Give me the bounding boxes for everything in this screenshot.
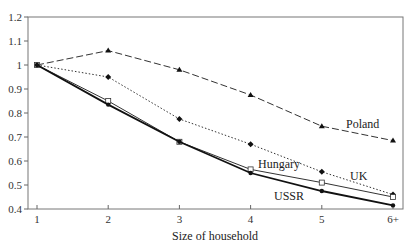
marker-triangle [105, 48, 111, 53]
marker-circle [320, 189, 324, 193]
y-tick-label: 0.6 [8, 155, 22, 167]
series-label-hungary: Hungary [258, 157, 300, 171]
series-poland [34, 48, 396, 143]
marker-diamond [319, 169, 325, 175]
x-tick-label: 4 [248, 213, 254, 225]
series-label-uk: UK [350, 169, 368, 183]
marker-circle [177, 140, 181, 144]
x-tick-label: 1 [34, 213, 40, 225]
x-tick-label: 5 [319, 213, 325, 225]
series-label-ussr: USSR [274, 189, 304, 203]
marker-circle [35, 63, 39, 67]
y-axis: 0.40.50.60.70.80.911.11.2 [8, 11, 28, 215]
y-tick-label: 1.2 [8, 11, 22, 23]
series-label-poland: Poland [346, 117, 379, 131]
series-hungary [35, 63, 396, 200]
marker-diamond [176, 116, 182, 122]
x-axis-title: Size of household [172, 229, 258, 243]
x-tick-label: 3 [177, 213, 183, 225]
x-tick-label: 6+ [387, 213, 399, 225]
series-lines [34, 48, 396, 208]
y-tick-label: 1 [17, 59, 23, 71]
marker-triangle [319, 123, 325, 128]
marker-diamond [248, 141, 254, 147]
y-tick-label: 0.5 [8, 179, 22, 191]
marker-circle [248, 171, 252, 175]
y-tick-label: 0.7 [8, 131, 22, 143]
series-ussr [35, 63, 395, 208]
household-size-chart: 0.40.50.60.70.80.911.11.2 123456+ Poland… [0, 0, 416, 248]
marker-triangle [248, 92, 254, 97]
y-tick-label: 0.8 [8, 107, 22, 119]
marker-diamond [105, 74, 111, 80]
x-tick-label: 2 [105, 213, 111, 225]
marker-square [319, 180, 324, 185]
y-tick-label: 1.1 [8, 35, 22, 47]
marker-circle [106, 102, 110, 106]
marker-square [391, 195, 396, 200]
y-tick-label: 0.9 [8, 83, 22, 95]
y-tick-label: 0.4 [8, 203, 22, 215]
x-axis: 123456+ [34, 205, 399, 225]
marker-circle [391, 203, 395, 207]
